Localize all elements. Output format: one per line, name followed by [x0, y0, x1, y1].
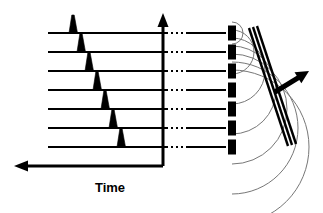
- transducer-element: [228, 26, 236, 41]
- vertical-axis-arrowhead: [158, 13, 169, 27]
- phased-array-figure: Time: [0, 0, 323, 213]
- pulse-spike: [101, 91, 110, 109]
- pulse-spike: [69, 15, 78, 33]
- transducer-element: [228, 45, 236, 60]
- transducer-elements-group: [228, 26, 236, 155]
- transducer-element: [228, 83, 236, 98]
- transducer-element: [228, 64, 236, 79]
- transducer-element: [228, 102, 236, 117]
- time-axis-arrowhead: [14, 161, 28, 172]
- pulse-spike: [93, 72, 102, 90]
- pulse-spike: [117, 129, 126, 147]
- transducer-element: [228, 121, 236, 136]
- figure-canvas: Time: [0, 0, 323, 213]
- pulse-spike: [85, 53, 94, 71]
- time-axis-label: Time: [95, 180, 125, 195]
- transducer-element: [228, 140, 236, 155]
- wavelet-arcs-group: [232, 22, 309, 213]
- pulse-spike: [109, 110, 118, 128]
- channel-lines-group: [48, 15, 226, 147]
- pulse-spike: [77, 34, 86, 52]
